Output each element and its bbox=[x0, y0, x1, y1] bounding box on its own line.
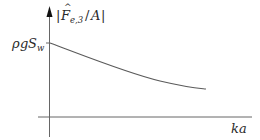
y-tick-label: ρ g S w bbox=[11, 36, 45, 53]
ylabel-bar-right: | bbox=[101, 8, 105, 23]
plot-figure: | F ^ e,3 / A | ρ g S w ka bbox=[0, 0, 260, 140]
ylabel-hat: ^ bbox=[64, 2, 72, 12]
tick-S: S bbox=[28, 36, 37, 51]
y-axis-label: | F ^ e,3 / A | bbox=[56, 2, 105, 25]
data-curve bbox=[50, 43, 206, 89]
ylabel-slash: / bbox=[85, 8, 90, 23]
x-axis-label: ka bbox=[231, 121, 247, 136]
ylabel-subscript: e,3 bbox=[70, 15, 83, 25]
y-axis-arrow-icon bbox=[47, 6, 53, 17]
tick-sub-w: w bbox=[37, 43, 45, 53]
tick-rho: ρ bbox=[11, 36, 20, 51]
ylabel-A: A bbox=[90, 8, 100, 23]
ylabel-bar-left: | bbox=[56, 8, 60, 23]
